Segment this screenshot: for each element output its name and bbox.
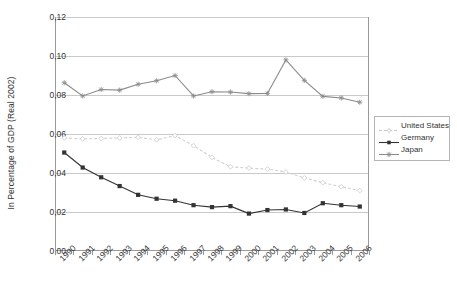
legend-swatch-japan xyxy=(379,145,399,154)
gridline xyxy=(56,95,368,96)
y-axis-title: In Percentage of GDP (Real 2002) xyxy=(0,0,22,286)
gridline xyxy=(56,134,368,135)
legend-swatch-germany xyxy=(379,133,399,142)
y-axis-tick-label: 0,12 xyxy=(26,13,66,22)
legend-swatch-united-states xyxy=(379,121,399,130)
gridline xyxy=(56,173,368,174)
y-axis-tick-label: 0,04 xyxy=(26,169,66,178)
legend: United States Germany xyxy=(374,116,450,161)
y-axis-tick-label: 0,06 xyxy=(26,130,66,139)
legend-label-united-states: United States xyxy=(401,121,449,130)
x-axis-tick xyxy=(55,251,56,255)
y-axis-tick-label: 0,08 xyxy=(26,91,66,100)
legend-label-japan: Japan xyxy=(401,145,423,154)
gridline xyxy=(56,212,368,213)
gridline xyxy=(56,56,368,57)
y-axis-tick-label: 0,02 xyxy=(26,208,66,217)
chart-container: In Percentage of GDP (Real 2002) 0,120,1… xyxy=(0,0,457,286)
legend-item-japan: Japan xyxy=(379,144,445,155)
legend-item-united-states: United States xyxy=(379,120,445,131)
legend-label-germany: Germany xyxy=(401,133,434,142)
y-axis-tick-label: 0,10 xyxy=(26,52,66,61)
legend-item-germany: Germany xyxy=(379,132,445,143)
plot-area xyxy=(55,17,369,251)
gridline xyxy=(56,17,368,18)
